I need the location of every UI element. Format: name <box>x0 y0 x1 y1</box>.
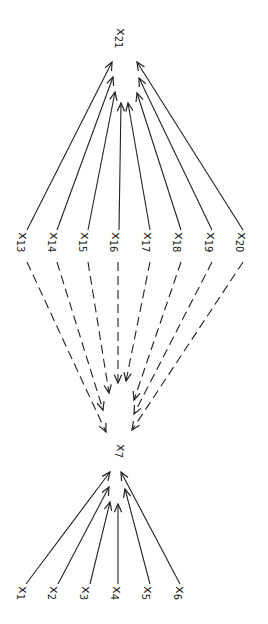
edge-x4-to-x7 <box>114 504 121 584</box>
edge-x1-to-x7 <box>26 472 110 584</box>
node-subscript: 20 <box>234 240 245 253</box>
node-label-x1: x1 <box>15 586 30 600</box>
edge-x5-to-x7 <box>124 489 150 584</box>
node-subscript: 18 <box>171 240 182 253</box>
node-label-x16: x16 <box>108 232 123 252</box>
node-subscript: 4 <box>109 594 120 600</box>
node-subscript: 5 <box>140 594 151 600</box>
path-diagram: x1x2x3x4x5x6x7x13x14x15x16x17x18x19x20x2… <box>0 0 268 624</box>
node-label-x2: x2 <box>46 586 61 600</box>
node-label-x18: x18 <box>171 232 186 252</box>
edge-x13-to-x21 <box>27 62 112 230</box>
node-base: x <box>114 444 129 452</box>
node-subscript: 14 <box>46 240 57 253</box>
edge-x16-to-x21 <box>117 103 124 230</box>
node-label-x7: x7 <box>113 444 128 458</box>
arrowhead-icon <box>133 391 140 400</box>
node-base: x <box>79 586 94 594</box>
node-subscript: 16 <box>108 240 119 253</box>
edge-x19-to-x7 <box>134 262 212 414</box>
node-subscript: 6 <box>172 594 183 600</box>
edge-x18-to-x21 <box>136 93 181 230</box>
node-subscript: 19 <box>203 240 214 253</box>
node-subscript: 3 <box>78 594 89 600</box>
diagram-edges <box>0 0 268 624</box>
edge-x20-to-x7 <box>132 262 243 430</box>
node-base: x <box>114 28 129 36</box>
edge-x18-to-x7 <box>133 262 181 400</box>
node-base: x <box>141 586 156 594</box>
node-label-x13: x13 <box>15 232 30 252</box>
node-label-x4: x4 <box>109 586 124 600</box>
arrowhead-icon <box>99 423 106 432</box>
node-label-x5: x5 <box>140 586 155 600</box>
edge-x16-to-x7 <box>114 262 121 383</box>
node-subscript: 15 <box>77 240 88 253</box>
node-base: x <box>110 586 125 594</box>
edge-x13-to-x7 <box>27 262 106 432</box>
node-base: x <box>47 586 62 594</box>
edge-x3-to-x7 <box>90 502 112 584</box>
node-base: x <box>235 232 250 240</box>
node-label-x15: x15 <box>77 232 92 252</box>
node-base: x <box>204 232 219 240</box>
arrowhead-icon <box>137 62 144 71</box>
node-subscript: 21 <box>113 36 124 49</box>
node-base: x <box>172 232 187 240</box>
edge-x14-to-x7 <box>57 262 104 410</box>
node-label-x21: x21 <box>113 28 128 48</box>
node-base: x <box>173 586 188 594</box>
node-subscript: 2 <box>46 594 57 600</box>
node-label-x14: x14 <box>46 232 61 252</box>
node-label-x3: x3 <box>78 586 93 600</box>
node-subscript: 7 <box>113 452 124 458</box>
node-label-x19: x19 <box>203 232 218 252</box>
arrowhead-icon <box>104 384 111 393</box>
arrowhead-icon <box>132 421 140 430</box>
edge-x15-to-x21 <box>88 92 117 230</box>
edge-x6-to-x7 <box>121 472 180 584</box>
node-label-x6: x6 <box>172 586 187 600</box>
node-base: x <box>141 232 156 240</box>
node-base: x <box>47 232 62 240</box>
node-subscript: 17 <box>140 240 151 253</box>
node-subscript: 13 <box>15 240 26 253</box>
edge-x19-to-x21 <box>139 78 212 230</box>
node-base: x <box>78 232 93 240</box>
node-base: x <box>16 232 31 240</box>
node-base: x <box>109 232 124 240</box>
node-label-x20: x20 <box>234 232 249 252</box>
node-base: x <box>16 586 31 594</box>
node-subscript: 1 <box>15 594 26 600</box>
edge-x20-to-x21 <box>137 62 243 230</box>
node-label-x17: x17 <box>140 232 155 252</box>
